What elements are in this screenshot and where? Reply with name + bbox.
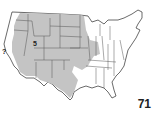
marker-california: ? xyxy=(2,48,6,55)
us-range-map xyxy=(0,0,155,116)
page-number: 71 xyxy=(138,97,151,111)
marker-utah: 5 xyxy=(33,40,37,47)
